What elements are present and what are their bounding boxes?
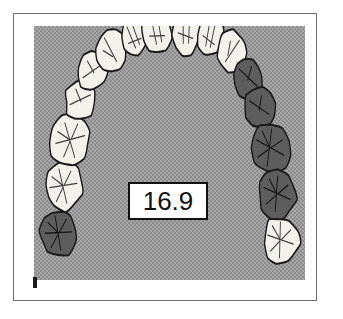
tooth-left-third-molar [38, 209, 78, 261]
tooth-right-second-molar [255, 165, 301, 226]
tooth-outline [255, 165, 301, 226]
teeth-group [38, 26, 303, 268]
tooth-right-third-molar [263, 216, 303, 268]
tooth-outline [263, 216, 303, 268]
tooth-outline [43, 156, 85, 217]
dental-arch-figure: 16.9 [0, 0, 343, 319]
tooth-left-central-incisor [140, 26, 174, 55]
measurement-value: 16.9 [143, 188, 194, 214]
dental-arch-drawing [34, 26, 305, 280]
tooth-left-second-molar [43, 156, 85, 217]
measurement-label-box: 16.9 [128, 182, 208, 220]
tooth-outline [140, 26, 174, 55]
